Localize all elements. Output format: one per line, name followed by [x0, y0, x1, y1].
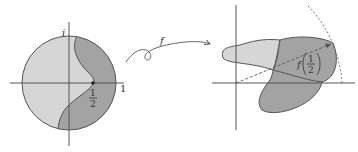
left-figure: i 1 1 2 [10, 22, 130, 146]
label-f-half-denominator: 2 [308, 65, 314, 75]
curved-arrow [126, 42, 210, 62]
right-figure: f 1 2 [212, 5, 355, 130]
label-f-half-numerator: 1 [308, 54, 314, 64]
point-half [91, 81, 95, 85]
label-half-numerator: 1 [90, 88, 96, 98]
label-one: 1 [120, 83, 126, 94]
image-light-region [222, 39, 280, 70]
label-f: f [159, 35, 166, 46]
label-half-denominator: 2 [90, 99, 96, 109]
diagram-canvas: i 1 1 2 f f 1 2 [0, 0, 358, 152]
mapping-arrow: f [126, 35, 210, 62]
label-i: i [62, 27, 65, 38]
